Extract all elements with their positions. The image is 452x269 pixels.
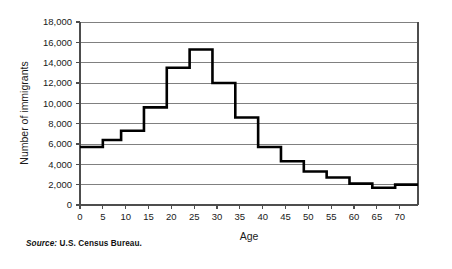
y-tick-label: 18,000 xyxy=(43,16,72,27)
source-label: Source: xyxy=(26,239,57,248)
x-tick-label: 15 xyxy=(143,211,154,222)
x-tick-label: 55 xyxy=(326,211,337,222)
y-tick-label: 8,000 xyxy=(48,118,72,129)
x-tick-label: 40 xyxy=(257,211,268,222)
x-axis-title: Age xyxy=(240,230,259,242)
source-value: U.S. Census Bureau. xyxy=(60,239,142,248)
y-tick-labels: 02,0004,0006,0008,00010,00012,00014,0001… xyxy=(43,16,72,210)
gridlines xyxy=(80,22,418,205)
y-tick-label: 6,000 xyxy=(48,138,72,149)
y-tick-label: 16,000 xyxy=(43,37,72,48)
x-tick-label: 20 xyxy=(166,211,177,222)
y-tick-label: 12,000 xyxy=(43,77,72,88)
chart-svg: 02,0004,0006,0008,00010,00012,00014,0001… xyxy=(0,0,452,269)
immigrants-by-age-chart: 02,0004,0006,0008,00010,00012,00014,0001… xyxy=(0,0,452,269)
x-tick-label: 30 xyxy=(212,211,223,222)
y-tick-label: 4,000 xyxy=(48,159,72,170)
data-line-series xyxy=(80,49,418,187)
y-tick-label: 10,000 xyxy=(43,98,72,109)
y-tick-label: 14,000 xyxy=(43,57,72,68)
x-tick-labels: 0510152025303540455055606570 xyxy=(77,211,405,222)
x-tick-label: 5 xyxy=(100,211,105,222)
x-tick-label: 35 xyxy=(235,211,246,222)
y-axis xyxy=(76,22,418,205)
y-tick-label: 2,000 xyxy=(48,179,72,190)
y-tick-label: 0 xyxy=(67,199,72,210)
y-axis-title: Number of immigrants xyxy=(18,61,30,164)
source-note: Source: U.S. Census Bureau. xyxy=(26,239,142,248)
x-tick-label: 0 xyxy=(77,211,82,222)
data-line xyxy=(80,49,418,187)
x-tick-label: 65 xyxy=(372,211,383,222)
x-tick-label: 60 xyxy=(349,211,360,222)
x-tick-label: 45 xyxy=(280,211,291,222)
x-axis xyxy=(80,205,418,209)
x-tick-label: 70 xyxy=(394,211,405,222)
x-tick-label: 50 xyxy=(303,211,314,222)
x-tick-label: 10 xyxy=(120,211,131,222)
x-tick-label: 25 xyxy=(189,211,200,222)
